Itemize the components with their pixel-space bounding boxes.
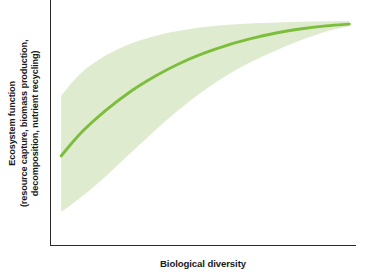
y-axis-label: Ecosystem function (resource capture, bi… <box>0 0 50 246</box>
y-axis-label-text: Ecosystem function (resource capture, bi… <box>8 39 43 206</box>
y-axis-label-line-1: Ecosystem function <box>8 39 20 206</box>
chart-figure: Ecosystem function (resource capture, bi… <box>0 0 366 276</box>
chart-plot-svg <box>51 0 356 246</box>
y-axis-label-line-2: (resource capture, biomass production, <box>19 39 31 206</box>
plot-area <box>50 0 356 246</box>
y-axis-label-line-3: decomposition, nutrient recycling) <box>31 39 43 206</box>
x-axis-label: Biological diversity <box>50 258 356 269</box>
uncertainty-band <box>61 21 349 212</box>
